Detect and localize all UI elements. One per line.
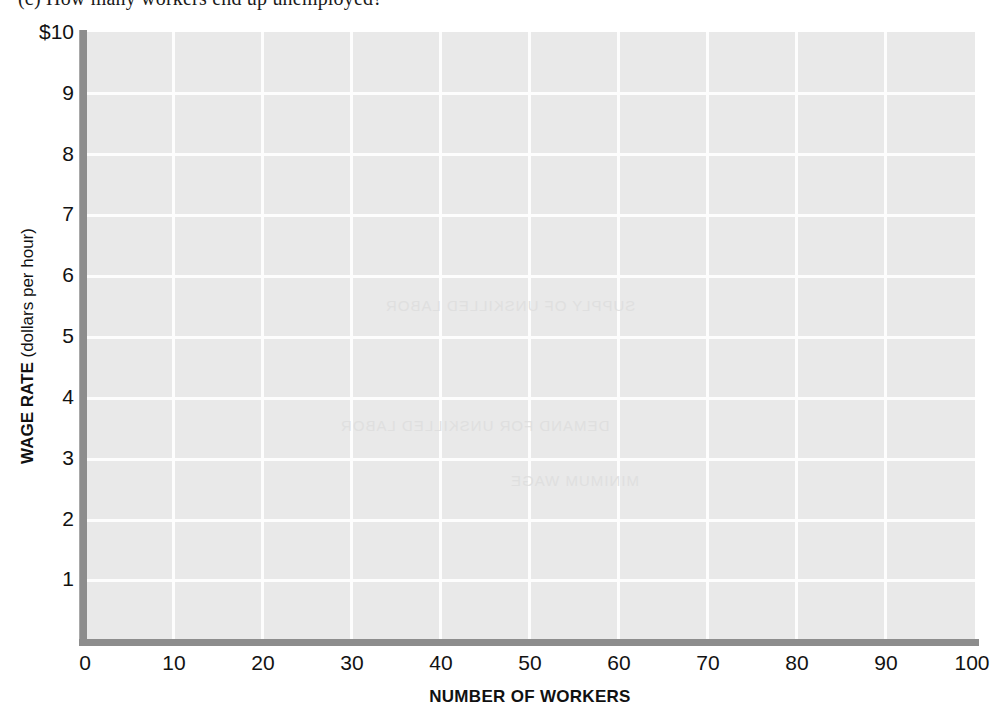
x-tick-label: 10 xyxy=(134,651,214,675)
x-tick-label: 70 xyxy=(668,651,748,675)
x-tick-label: 100 xyxy=(932,651,993,675)
y-tick-label: 2 xyxy=(4,507,74,531)
gridline-horizontal xyxy=(85,214,975,217)
gridline-horizontal xyxy=(85,153,975,156)
x-tick-label: 90 xyxy=(846,651,926,675)
x-axis-line xyxy=(79,639,979,646)
gridline-horizontal xyxy=(85,579,975,582)
y-tick-label: 3 xyxy=(4,446,74,470)
gridline-horizontal xyxy=(85,458,975,461)
y-tick-label: 1 xyxy=(4,567,74,591)
y-axis-line xyxy=(79,30,87,646)
y-tick-label: 9 xyxy=(4,81,74,105)
x-tick-label: 80 xyxy=(757,651,837,675)
x-tick-label: 20 xyxy=(223,651,303,675)
gridline-horizontal xyxy=(85,336,975,339)
y-tick-label: 4 xyxy=(4,385,74,409)
ghost-text: DEMAND FOR UNSKILLED LABOR xyxy=(340,417,609,434)
plot-area: SUPPLY OF UNSKILLED LABOR DEMAND FOR UNS… xyxy=(85,32,975,640)
wage-rate-vs-workers-chart: SUPPLY OF UNSKILLED LABOR DEMAND FOR UNS… xyxy=(0,0,993,718)
y-axis-title-bold: WAGE RATE xyxy=(18,362,37,464)
gridline-horizontal xyxy=(85,519,975,522)
x-tick-label: 30 xyxy=(312,651,392,675)
x-tick-label: 40 xyxy=(401,651,481,675)
y-tick-label: 8 xyxy=(4,142,74,166)
y-tick-label: 5 xyxy=(4,324,74,348)
y-axis-title: WAGE RATE (dollars per hour) xyxy=(18,186,38,506)
gridline-horizontal xyxy=(85,275,975,278)
ghost-text: SUPPLY OF UNSKILLED LABOR xyxy=(385,297,635,314)
gridline-horizontal xyxy=(85,92,975,95)
x-tick-label: 0 xyxy=(45,651,125,675)
x-tick-label: 50 xyxy=(490,651,570,675)
y-axis-title-units: (dollars per hour) xyxy=(18,228,37,362)
y-tick-label: 6 xyxy=(4,263,74,287)
y-tick-label: $10 xyxy=(4,20,74,44)
x-axis-title: NUMBER OF WORKERS xyxy=(85,687,975,707)
y-tick-label: 7 xyxy=(4,202,74,226)
x-tick-label: 60 xyxy=(579,651,659,675)
gridline-horizontal xyxy=(85,397,975,400)
